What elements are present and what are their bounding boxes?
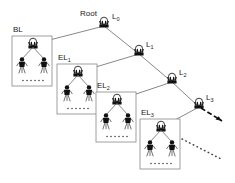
edge-L0-L1 [104, 26, 139, 54]
diagram-canvas [0, 0, 235, 183]
level-node-L1 [134, 45, 143, 55]
level-label-L0: L0 [112, 13, 120, 21]
dashed-continuation-arrow [201, 108, 222, 121]
root-label: Root [80, 10, 97, 18]
tree-diagram: Root L0 L1 L2 L3 BL EL1 EL2 EL3 [0, 0, 235, 183]
subtree-box-BL [12, 36, 52, 86]
dotted-ellipsis-path [182, 139, 223, 160]
level-node-L3 [194, 98, 203, 108]
box-label-EL3: EL3 [141, 109, 154, 117]
edge-L1-L2 [139, 54, 172, 82]
box-label-BL: BL [13, 26, 23, 34]
level-node-L2 [167, 73, 176, 83]
box-label-EL1: EL1 [58, 54, 71, 62]
level-label-L2: L2 [179, 69, 187, 77]
subtree-box-EL3 [140, 119, 180, 169]
level-label-L3: L3 [206, 94, 214, 102]
subtree-box-EL1 [57, 64, 97, 114]
level-label-L1: L1 [146, 41, 154, 49]
level-node-L0 [99, 17, 108, 27]
box-label-EL2: EL2 [97, 82, 110, 90]
subtree-box-EL2 [96, 92, 136, 142]
